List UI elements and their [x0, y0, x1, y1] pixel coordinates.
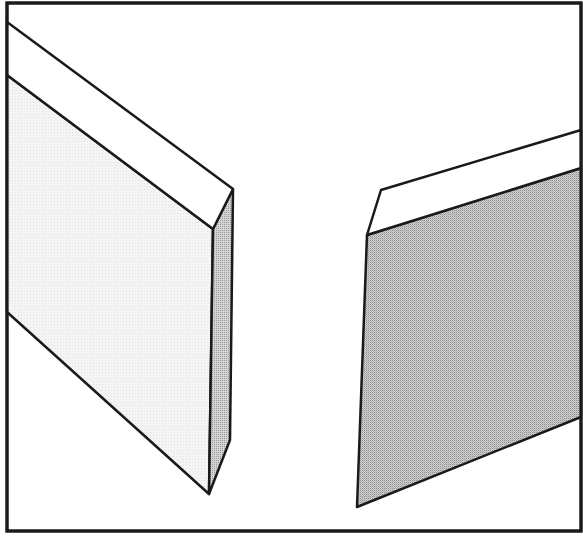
blade-diagram [0, 0, 583, 545]
